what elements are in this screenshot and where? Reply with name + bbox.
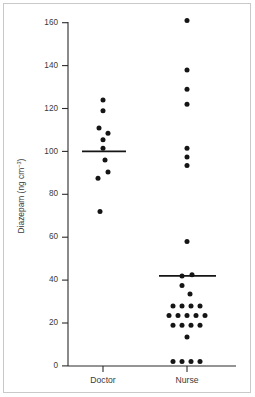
data-point [101, 146, 106, 151]
data-point [189, 303, 194, 308]
data-point [98, 209, 103, 214]
y-tick-label-120: 120 [44, 104, 58, 113]
y-tick-label-160: 160 [44, 18, 58, 27]
y-tick-label-40: 40 [49, 275, 59, 284]
data-point [101, 137, 106, 142]
y-axis-title-group: Diazepam (ng cm−3) [16, 158, 26, 233]
data-point [103, 158, 108, 163]
y-tick-group: 160 140 120 100 80 60 40 20 0 [44, 18, 68, 370]
y-tick-label-0: 0 [53, 361, 58, 370]
series-doctor [82, 98, 126, 215]
y-tick-label-100: 100 [44, 147, 58, 156]
data-point [185, 68, 190, 73]
data-point [96, 176, 101, 181]
data-point [198, 303, 203, 308]
y-tick-label-20: 20 [49, 318, 59, 327]
data-point [167, 313, 172, 318]
x-tick-group [103, 366, 187, 372]
data-point [194, 313, 199, 318]
y-tick-label-80: 80 [49, 189, 59, 198]
data-point [189, 359, 194, 364]
plot-area: 160 140 120 100 80 60 40 20 0 [0, 0, 255, 397]
data-point [171, 303, 176, 308]
data-point [189, 323, 194, 328]
data-point [106, 169, 111, 174]
data-point [97, 125, 102, 130]
data-point [101, 108, 106, 113]
data-point [180, 359, 185, 364]
y-tick-label-140: 140 [44, 61, 58, 70]
data-point [203, 313, 208, 318]
data-point [185, 154, 190, 159]
data-point [101, 98, 106, 103]
data-point [180, 283, 185, 288]
data-point [176, 313, 181, 318]
y-axis-title-closing: ) [16, 158, 26, 161]
y-axis-title-main: Diazepam (ng cm [16, 168, 26, 234]
data-point [185, 102, 190, 107]
data-point [185, 146, 190, 151]
data-point [171, 323, 176, 328]
y-tick-label-60: 60 [49, 232, 59, 241]
data-point [185, 87, 190, 92]
series-nurse [159, 18, 216, 364]
data-point [106, 131, 111, 136]
data-point [188, 292, 193, 297]
data-point [185, 313, 190, 318]
dot-plot-figure: 160 140 120 100 80 60 40 20 0 [0, 0, 255, 397]
x-axis-label-nurse: Nurse [176, 375, 199, 385]
data-point [185, 239, 190, 244]
data-point [185, 163, 190, 168]
data-point [198, 359, 203, 364]
plot-svg: 160 140 120 100 80 60 40 20 0 [0, 0, 255, 397]
data-point [185, 18, 190, 23]
data-point [198, 323, 203, 328]
data-point [185, 335, 190, 340]
data-point [171, 359, 176, 364]
x-axis-label-doctor: Doctor [90, 375, 115, 385]
y-axis-title: Diazepam (ng cm−3) [16, 158, 26, 233]
data-point [180, 323, 185, 328]
data-point [180, 303, 185, 308]
